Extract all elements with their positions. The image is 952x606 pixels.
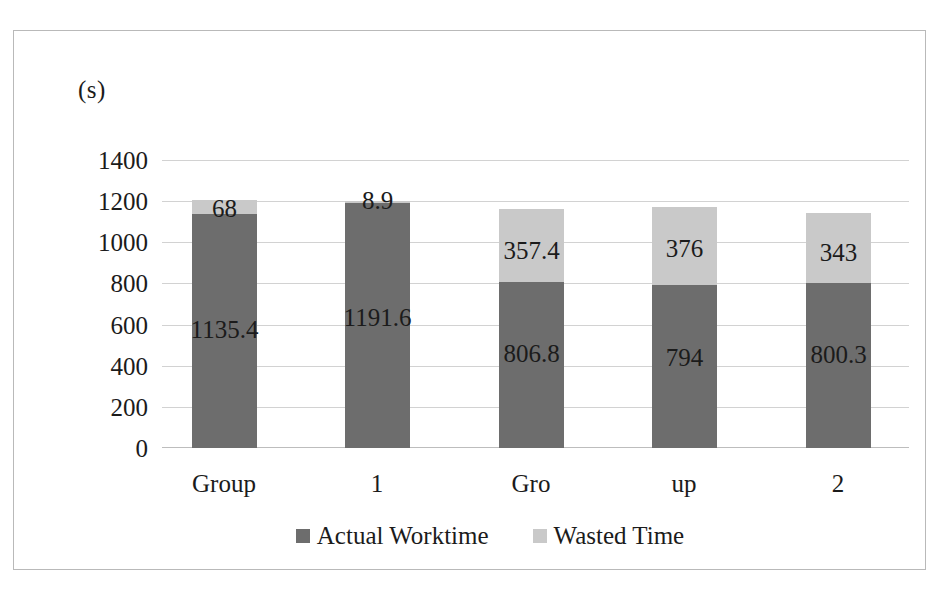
x-axis-tick: up <box>624 471 744 496</box>
y-axis-tick: 1400 <box>56 148 148 173</box>
y-axis-tick: 1000 <box>56 230 148 255</box>
chart-frame: (s) 1400 1200 1000 800 600 400 200 0 113… <box>13 30 926 570</box>
bar-value-label: 68 <box>212 196 237 221</box>
plot-area: 1135.4 68 1191.6 8.9 806.8 357.4 <box>162 160 909 448</box>
gridline <box>162 160 909 161</box>
bar-value-label: 794 <box>666 344 704 369</box>
y-axis-tick-labels: 1400 1200 1000 800 600 400 200 0 <box>56 160 148 448</box>
bar-group[interactable]: 800.3 343 <box>806 213 871 448</box>
y-axis-tick: 400 <box>56 353 148 378</box>
x-axis-tick: 1 <box>317 471 437 496</box>
y-axis-tick: 0 <box>56 436 148 461</box>
bar-value-label: 357.4 <box>503 238 559 263</box>
legend-label: Wasted Time <box>554 523 685 548</box>
x-axis-tick-labels: Group 1 Gro up 2 <box>162 471 909 505</box>
y-axis-tick: 200 <box>56 394 148 419</box>
legend-swatch-icon <box>296 529 310 543</box>
y-axis-tick: 600 <box>56 312 148 337</box>
legend-item-actual-worktime[interactable]: Actual Worktime <box>296 523 489 548</box>
legend-swatch-icon <box>533 529 547 543</box>
x-axis-tick: Gro <box>471 471 591 496</box>
bar-group[interactable]: 806.8 357.4 <box>499 209 564 449</box>
y-axis-unit-label: (s) <box>78 77 106 102</box>
bar-segment-actual-worktime[interactable]: 794 <box>652 285 717 448</box>
bar-group[interactable]: 794 376 <box>652 207 717 448</box>
bar-value-label: 800.3 <box>810 342 866 367</box>
bar-segment-wasted-time[interactable]: 343 <box>806 213 871 284</box>
bar-segment-actual-worktime[interactable]: 806.8 <box>499 282 564 448</box>
chart-legend: Actual Worktime Wasted Time <box>14 523 952 548</box>
y-axis-tick: 1200 <box>56 189 148 214</box>
bar-segment-wasted-time[interactable]: 8.9 <box>345 201 410 203</box>
bar-value-label: 806.8 <box>503 341 559 366</box>
bar-value-label: 1135.4 <box>191 316 259 341</box>
gridline <box>162 201 909 202</box>
bar-segment-wasted-time[interactable]: 376 <box>652 207 717 284</box>
bar-value-label: 1191.6 <box>344 304 412 329</box>
legend-label: Actual Worktime <box>317 523 489 548</box>
x-axis-tick: 2 <box>778 471 898 496</box>
bar-segment-wasted-time[interactable]: 357.4 <box>499 209 564 283</box>
bar-segment-wasted-time[interactable]: 68 <box>192 200 257 214</box>
x-axis-tick: Group <box>164 471 284 496</box>
bar-value-label: 376 <box>666 236 704 261</box>
bar-group[interactable]: 1191.6 8.9 <box>345 201 410 448</box>
bar-segment-actual-worktime[interactable]: 1191.6 <box>345 203 410 448</box>
legend-item-wasted-time[interactable]: Wasted Time <box>533 523 685 548</box>
bar-value-label: 8.9 <box>362 188 393 213</box>
bar-segment-actual-worktime[interactable]: 1135.4 <box>192 214 257 448</box>
bar-segment-actual-worktime[interactable]: 800.3 <box>806 283 871 448</box>
bar-value-label: 343 <box>820 239 858 264</box>
bar-group[interactable]: 1135.4 68 <box>192 200 257 448</box>
y-axis-tick: 800 <box>56 271 148 296</box>
